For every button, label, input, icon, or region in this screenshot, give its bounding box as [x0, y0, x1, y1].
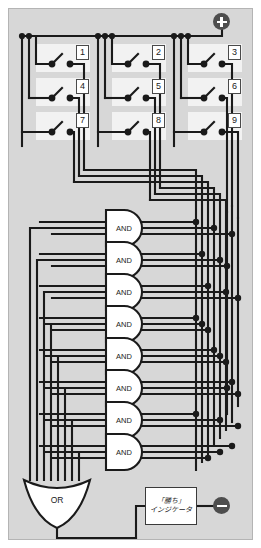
junction-dot: [229, 443, 235, 449]
indicator-label-line1: 「勝ち」: [157, 497, 185, 506]
switch-contact: [143, 61, 150, 68]
junction-dot: [178, 33, 184, 39]
switch-number-6: 6: [228, 79, 241, 94]
switch-contact: [201, 129, 208, 136]
junction-dot: [217, 449, 223, 455]
switch-contact: [67, 95, 74, 102]
junction-dot: [211, 347, 217, 353]
minus-terminal-icon: [213, 497, 230, 514]
circuit-diagram-page: AND AND AND AND AND AND AND AND OR 1 2 3…: [0, 0, 261, 548]
and-gate-8-label: AND: [116, 448, 132, 457]
junction-dot: [185, 33, 191, 39]
switch-number-9: 9: [228, 113, 241, 128]
and7-out-to-or: [72, 420, 106, 480]
junction-dot: [95, 33, 101, 39]
switch-number-4: 4: [76, 79, 89, 94]
junction-dot: [235, 423, 241, 429]
rail-drop-sw3: [188, 36, 204, 64]
rail-drop-sw2: [112, 36, 128, 64]
and-gate-2-label: AND: [116, 256, 132, 265]
win-indicator-box: 「勝ち」 インジケータ: [145, 487, 197, 525]
junction-dot: [193, 219, 199, 225]
switch-contact: [125, 61, 132, 68]
switch-number-2: 2: [152, 45, 165, 60]
junction-dot: [223, 359, 229, 365]
and-gate-5-label: AND: [116, 352, 132, 361]
and8-out-to-or: [79, 452, 106, 480]
switch-contact: [219, 129, 226, 136]
junction-dot: [19, 33, 25, 39]
switch-contact: [143, 95, 150, 102]
switch-contact: [201, 61, 208, 68]
junction-dot: [224, 385, 230, 391]
switch-out-7: [70, 132, 74, 182]
junction-dot: [235, 295, 241, 301]
and-gate-1-label: AND: [116, 224, 132, 233]
junction-dot: [217, 257, 223, 263]
junction-dot: [205, 283, 211, 289]
junction-dot: [229, 379, 235, 385]
junction-dot: [205, 327, 211, 333]
switch-number-7: 7: [76, 113, 89, 128]
plus-terminal-icon: [213, 13, 230, 30]
switch-contact: [219, 95, 226, 102]
junction-dot: [193, 411, 199, 417]
switch-number-3: 3: [228, 45, 241, 60]
switch-number-5: 5: [152, 79, 165, 94]
bus-5: [155, 194, 220, 438]
junction-dot: [199, 251, 205, 257]
junction-dot: [109, 33, 115, 39]
switch-contact: [125, 95, 132, 102]
switch-contact: [125, 129, 132, 136]
circuit-wiring: AND AND AND AND AND AND AND AND OR: [0, 0, 261, 548]
switch-out-9: [222, 132, 238, 218]
switch-out-6: [222, 98, 227, 212]
junction-dot: [199, 321, 205, 327]
and-gate-4-label: AND: [116, 320, 132, 329]
junction-dot: [217, 353, 223, 359]
and-gate-7-label: AND: [116, 416, 132, 425]
and-gate-6-label: AND: [116, 384, 132, 393]
junction-dot: [224, 263, 230, 269]
switch-contact: [67, 61, 74, 68]
switch-number-8: 8: [152, 113, 165, 128]
and-gate-3-label: AND: [116, 288, 132, 297]
junction-dot: [102, 33, 108, 39]
junction-dot: [217, 417, 223, 423]
indicator-label-line2: インジケータ: [150, 506, 192, 515]
switch-number-1: 1: [76, 45, 89, 60]
junction-dot: [193, 315, 199, 321]
switch-contact: [201, 95, 208, 102]
junction-dot: [205, 455, 211, 461]
junction-dot: [223, 289, 229, 295]
switch-out-8: [146, 132, 150, 200]
junction-dot: [229, 231, 235, 237]
junction-dot: [26, 33, 32, 39]
switch-contact: [67, 129, 74, 136]
or-output-wire: [57, 528, 136, 538]
junction-dot: [235, 391, 241, 397]
junction-dot: [211, 225, 217, 231]
or-gate-label: OR: [51, 495, 64, 505]
indicator-input-wire: [136, 506, 145, 538]
switch-contact: [219, 61, 226, 68]
switch-contact: [49, 95, 56, 102]
switch-contact: [49, 61, 56, 68]
rail-drop-sw1: [36, 36, 52, 64]
switch-contact: [49, 129, 56, 136]
junction-dot: [171, 33, 177, 39]
switch-contact: [143, 129, 150, 136]
